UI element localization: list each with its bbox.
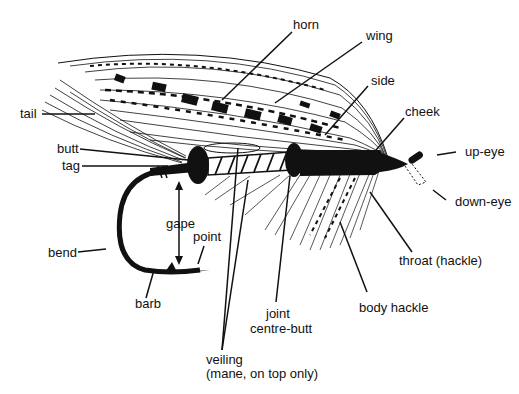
leader-barb (146, 270, 154, 298)
label-butt: butt (57, 141, 79, 156)
label-tail: tail (20, 106, 37, 121)
leader-bend (78, 249, 106, 252)
salmon-fly-diagram: horn wing side cheek up-eye down-eye tai… (0, 0, 519, 394)
label-cheek: cheek (405, 104, 440, 119)
label-wing: wing (365, 28, 393, 43)
label-tag: tag (62, 158, 80, 173)
leader-point (198, 246, 204, 264)
label-throat: throat (hackle) (399, 253, 482, 268)
leader-body-hackle (340, 222, 367, 292)
wing-feathers (58, 54, 388, 158)
label-barb: barb (135, 296, 161, 311)
gape-arrow-head-down (175, 256, 183, 265)
gape-arrow-head-up (175, 181, 183, 190)
leader-cheek (376, 118, 404, 150)
label-point: point (193, 229, 222, 244)
leader-down-eye (433, 190, 446, 200)
leader-butt (80, 149, 188, 160)
labels: horn wing side cheek up-eye down-eye tai… (20, 17, 511, 381)
label-horn: horn (293, 17, 319, 32)
leader-up-eye (437, 152, 456, 155)
label-body-hackle: body hackle (359, 300, 428, 315)
label-veiling-note: (mane, on top only) (206, 366, 318, 381)
label-centre-butt: centre-butt (250, 321, 313, 336)
label-gape: gape (166, 216, 195, 231)
leader-veiling-2 (222, 180, 248, 350)
label-up-eye: up-eye (465, 144, 505, 159)
label-joint: joint (265, 306, 290, 321)
label-side: side (371, 73, 395, 88)
label-bend: bend (48, 245, 77, 260)
leader-veiling-1 (222, 148, 238, 350)
fly-illustration (42, 54, 426, 274)
leader-joint (276, 176, 290, 302)
label-veiling: veiling (206, 352, 243, 367)
leader-throat (370, 192, 412, 252)
label-down-eye: down-eye (455, 194, 511, 209)
